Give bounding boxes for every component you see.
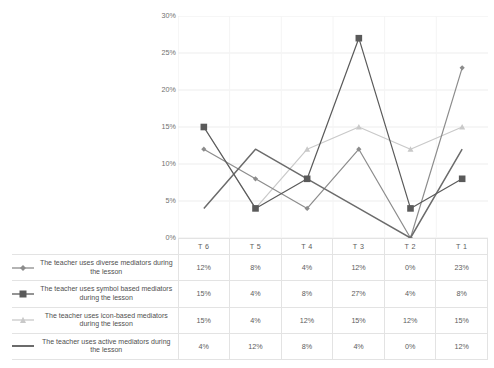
value-cell: 8% <box>436 281 488 307</box>
legend-square-marker <box>20 290 27 297</box>
legend-diamond-icon <box>12 263 34 273</box>
category-header-3: T 4 <box>281 239 333 255</box>
value-cell: 12% <box>333 255 385 281</box>
chart-plot-area <box>178 16 488 238</box>
data-point-diamond-marker <box>253 176 258 181</box>
legend-entry-1[interactable]: The teacher uses diverse mediators durin… <box>12 255 178 281</box>
data-point-square-marker <box>252 205 259 212</box>
table-row: The teacher uses active mediators during… <box>12 333 488 359</box>
legend-square-icon <box>12 289 34 299</box>
y-axis-tick-label: 5% <box>148 197 176 205</box>
value-cell: 12% <box>281 307 333 333</box>
y-axis-tick-label: 10% <box>148 160 176 168</box>
category-header-4: T 3 <box>333 239 385 255</box>
value-cell: 4% <box>281 255 333 281</box>
value-cell: 15% <box>333 307 385 333</box>
data-point-square-marker <box>459 176 466 183</box>
table-row: The teacher uses icon-based mediators du… <box>12 307 488 333</box>
value-cell: 4% <box>178 333 230 359</box>
data-point-diamond-marker <box>201 147 206 152</box>
legend-label: The teacher uses diverse mediators durin… <box>37 259 176 276</box>
category-header-5: T 2 <box>384 239 436 255</box>
value-cell: 12% <box>230 333 282 359</box>
value-cell: 12% <box>436 333 488 359</box>
legend-entry-2[interactable]: The teacher uses symbol based mediators … <box>12 281 178 307</box>
value-cell: 8% <box>281 333 333 359</box>
value-cell: 15% <box>436 307 488 333</box>
data-point-diamond-marker <box>460 65 465 70</box>
chart-data-table: T 6T 5T 4T 3T 2T 1 The teacher uses dive… <box>12 238 488 360</box>
table-header-row: T 6T 5T 4T 3T 2T 1 <box>12 239 488 255</box>
value-cell: 12% <box>178 255 230 281</box>
table-row: The teacher uses diverse mediators durin… <box>12 255 488 281</box>
y-axis-tick-label: 30% <box>148 12 176 20</box>
y-axis-tick-label: 15% <box>148 123 176 131</box>
value-cell: 12% <box>384 307 436 333</box>
value-cell: 4% <box>230 281 282 307</box>
y-axis-tick-label: 20% <box>148 86 176 94</box>
value-cell: 0% <box>384 255 436 281</box>
data-point-square-marker <box>201 124 208 131</box>
value-cell: 4% <box>333 333 385 359</box>
legend-none-icon <box>12 341 34 351</box>
y-axis-tick-label: 25% <box>148 49 176 57</box>
category-header-1: T 6 <box>178 239 230 255</box>
data-point-triangle-marker <box>408 146 414 152</box>
value-cell: 8% <box>230 255 282 281</box>
legend-label: The teacher uses active mediators during… <box>37 338 176 355</box>
value-cell: 15% <box>178 281 230 307</box>
data-point-square-marker <box>407 205 414 212</box>
value-cell: 0% <box>384 333 436 359</box>
legend-triangle-icon <box>12 315 34 325</box>
legend-label: The teacher uses icon-based mediators du… <box>37 312 176 329</box>
y-axis: 0%5%10%15%20%25%30% <box>148 10 176 244</box>
value-cell: 8% <box>281 281 333 307</box>
category-header-6: T 1 <box>436 239 488 255</box>
value-cell: 27% <box>333 281 385 307</box>
data-point-triangle-marker <box>304 146 310 152</box>
value-cell: 4% <box>230 307 282 333</box>
chart-screenshot: 0%5%10%15%20%25%30% T 6T 5T 4T 3T 2T 1 T… <box>0 0 494 368</box>
legend-entry-3[interactable]: The teacher uses icon-based mediators du… <box>12 307 178 333</box>
legend-entry-4[interactable]: The teacher uses active mediators during… <box>12 333 178 359</box>
legend-diamond-marker <box>20 265 26 271</box>
value-cell: 4% <box>384 281 436 307</box>
data-point-square-marker <box>356 35 363 42</box>
line-chart-svg <box>178 16 488 238</box>
legend-header-blank <box>12 239 178 255</box>
table-row: The teacher uses symbol based mediators … <box>12 281 488 307</box>
category-header-2: T 5 <box>230 239 282 255</box>
data-point-square-marker <box>304 176 311 183</box>
value-cell: 23% <box>436 255 488 281</box>
legend-label: The teacher uses symbol based mediators … <box>37 285 176 302</box>
table-body: The teacher uses diverse mediators durin… <box>12 255 488 360</box>
value-cell: 15% <box>178 307 230 333</box>
